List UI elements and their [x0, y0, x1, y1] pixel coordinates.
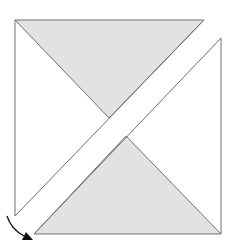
fold-arrow-icon — [7, 216, 33, 240]
bottom-shaded-triangle — [34, 136, 221, 234]
diagram-canvas — [0, 0, 229, 251]
fold-diagram — [0, 0, 229, 251]
top-shaded-triangle — [15, 20, 204, 118]
